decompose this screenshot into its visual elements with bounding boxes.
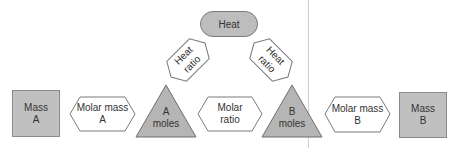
molar-mass-b-line2: B: [332, 115, 384, 127]
heat-label: Heat: [218, 19, 239, 30]
a-moles-label: A moles: [141, 104, 191, 132]
molar-mass-a-label: Molar mass A: [70, 97, 135, 131]
molar-ratio-line2: ratio: [217, 114, 242, 126]
molar-ratio-line1: Molar: [217, 102, 242, 114]
a-moles-line2: moles: [153, 118, 180, 130]
molar-mass-a-line2: A: [77, 114, 129, 126]
mass-a-line1: Mass: [24, 102, 48, 114]
mass-a-node: Mass A: [12, 90, 60, 137]
mass-b-line1: Mass: [411, 103, 435, 115]
molar-ratio-label: Molar ratio: [198, 97, 262, 131]
molar-mass-b-label: Molar mass B: [325, 97, 390, 132]
b-moles-line1: B: [279, 106, 306, 118]
mass-a-line2: A: [24, 114, 48, 126]
heat-node: Heat: [200, 11, 258, 37]
b-moles-line2: moles: [279, 118, 306, 130]
mass-b-line2: B: [411, 115, 435, 127]
b-moles-label: B moles: [267, 104, 317, 132]
mass-b-node: Mass B: [399, 92, 447, 138]
a-moles-line1: A: [153, 106, 180, 118]
molar-mass-b-line1: Molar mass: [332, 103, 384, 115]
molar-mass-a-line1: Molar mass: [77, 102, 129, 114]
